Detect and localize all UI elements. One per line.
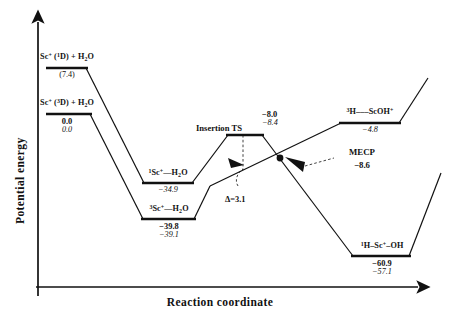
delta-arrowhead-icon <box>228 158 244 168</box>
label-triplet-product: 3H–––ScOH+ <box>332 107 408 117</box>
x-axis-label: Reaction coordinate <box>140 296 300 308</box>
label-triplet-reactant: Sc+ (3D) + H2O <box>28 98 106 108</box>
value-triplet-reactant: 0.0 0.0 <box>29 117 105 135</box>
label-singlet-reactant: Sc+ (1D) + H2O <box>28 52 106 62</box>
value-singlet-reactant: (7.4) <box>29 71 105 80</box>
value-singlet-complex: −34.9 <box>130 186 206 195</box>
label-triplet-complex: 3Sc+—H2O <box>130 204 208 214</box>
label-triplet-complex-formula: 3Sc+—H2O <box>130 204 208 214</box>
mecp-leader-line <box>305 158 334 166</box>
value-triplet-complex: −39.8 −39.1 <box>130 222 208 240</box>
delta-leader-line <box>236 169 243 186</box>
label-triplet-product-formula: 3H–––ScOH+ <box>332 107 408 117</box>
y-axis-label: Potential energy <box>14 137 26 224</box>
label-insertion-ts: Insertion TS <box>196 117 242 134</box>
label-triplet-reactant-formula: Sc+ (3D) + H2O <box>28 98 106 108</box>
value-singlet-insertion-product: −60.9 −57.1 <box>344 259 420 277</box>
label-delta-gap: Δ=3.1 <box>225 188 246 205</box>
value-insertion-ts: −8.0 −8.4 <box>262 110 278 128</box>
value-triplet-product: −4.8 <box>332 126 408 135</box>
mecp-point-marker <box>277 155 284 162</box>
label-singlet-reactant-formula: Sc+ (1D) + H2O <box>28 52 106 62</box>
label-singlet-insertion-product: 1H–Sc+–OH <box>344 241 420 251</box>
label-singlet-complex-formula: 1Sc+—H2O <box>130 168 206 178</box>
label-mecp: MECP −8.6 <box>334 148 390 170</box>
label-singlet-complex: 1Sc+—H2O <box>130 168 206 178</box>
energy-diagram-figure: Potential energy Reaction coordinate Sc+… <box>0 0 451 320</box>
label-singlet-insertion-product-formula: 1H–Sc+–OH <box>344 241 420 251</box>
